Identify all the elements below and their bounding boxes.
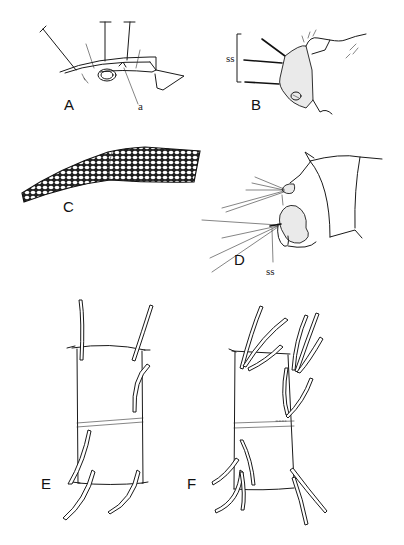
panel-label-c: C xyxy=(63,198,74,215)
panel-label-a: A xyxy=(64,96,74,113)
band-e xyxy=(77,418,143,427)
annotation-ss-b: ss xyxy=(226,52,235,64)
panel-d-drawing xyxy=(202,152,382,272)
panel-f-drawing xyxy=(212,306,327,525)
annotation-ss-d: ss xyxy=(266,265,275,277)
figure-canvas: A a ss B C xyxy=(0,0,404,545)
panel-c-drawing xyxy=(22,147,200,202)
panel-label-d: D xyxy=(234,251,245,268)
annotation-a: a xyxy=(138,100,143,112)
panel-label-b: B xyxy=(251,96,261,113)
panel-label-f: F xyxy=(187,475,196,492)
panel-a-drawing xyxy=(40,22,184,104)
panel-label-e: E xyxy=(41,475,51,492)
band-f xyxy=(234,421,294,428)
panel-e-drawing xyxy=(63,300,153,520)
